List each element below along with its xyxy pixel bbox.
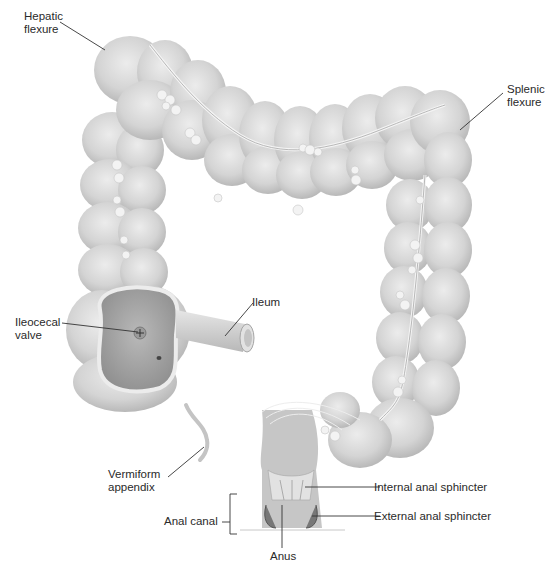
label-anal-canal: Anal canal: [164, 515, 218, 528]
label-line: Anus: [270, 550, 296, 563]
label-line: appendix: [108, 481, 160, 494]
label-internal-anal-sphincter: Internal anal sphincter: [374, 481, 487, 494]
label-line: Anal canal: [164, 515, 218, 528]
label-line: External anal sphincter: [374, 510, 491, 523]
label-line: flexure: [507, 96, 545, 109]
label-line: flexure: [24, 23, 63, 36]
label-line: Internal anal sphincter: [374, 481, 487, 494]
cecum-interior: [99, 287, 178, 391]
vermiform-appendix: [186, 405, 207, 460]
label-line: Splenic: [507, 83, 545, 96]
label-line: Vermiform: [108, 468, 160, 481]
descending-colon: [320, 175, 472, 468]
label-line: Hepatic: [24, 10, 63, 23]
label-line: valve: [15, 329, 60, 342]
label-ileum: Ileum: [252, 296, 280, 309]
label-vermiform-appendix: Vermiform appendix: [108, 468, 160, 494]
label-anus: Anus: [270, 550, 296, 563]
label-line: Ileum: [252, 296, 280, 309]
label-line: Ileocecal: [15, 316, 60, 329]
label-ileocecal-valve: Ileocecal valve: [15, 316, 60, 342]
label-hepatic-flexure: Hepatic flexure: [24, 10, 63, 36]
label-external-anal-sphincter: External anal sphincter: [374, 510, 491, 523]
label-splenic-flexure: Splenic flexure: [507, 83, 545, 109]
